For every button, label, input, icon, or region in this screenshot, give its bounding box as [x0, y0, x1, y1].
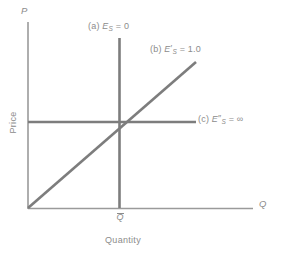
x-axis-symbol: Q	[259, 199, 266, 209]
diagram-canvas	[0, 0, 283, 265]
y-axis-title: Price	[9, 100, 18, 146]
y-axis-symbol: P	[21, 6, 27, 16]
curve-c-marker: (c)	[198, 114, 209, 124]
supply-curve-b-diagonal	[28, 62, 196, 208]
x-axis-tick-label-qbar: Q	[112, 213, 128, 222]
qbar-letter: Q	[116, 212, 123, 222]
curve-a-value: 0	[124, 21, 129, 31]
curve-label-b: (b) E′S = 1.0	[150, 44, 201, 56]
curve-a-marker: (a)	[88, 21, 100, 31]
curve-c-value: ∞	[237, 114, 244, 124]
curve-label-c: (c) E″S = ∞	[198, 114, 243, 126]
supply-elasticity-figure: P Q Price Quantity Q (a) ES = 0 (b) E′S …	[0, 0, 283, 265]
curve-label-a: (a) ES = 0	[88, 22, 129, 33]
curve-b-value: 1.0	[188, 44, 201, 54]
x-axis-title: Quantity	[78, 236, 168, 245]
curve-b-marker: (b)	[150, 44, 162, 54]
